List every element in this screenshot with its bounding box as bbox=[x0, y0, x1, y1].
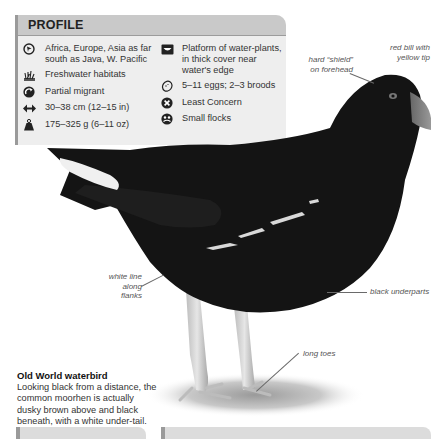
conservation-status-icon bbox=[160, 97, 174, 109]
annotation-flanks: white line along flanks bbox=[100, 272, 142, 301]
profile-header: PROFILE bbox=[18, 15, 286, 36]
profile-panel: PROFILE Africa, Europe, Asia as far sout… bbox=[15, 15, 286, 145]
profile-item-text: 30–38 cm (12–15 in) bbox=[45, 102, 129, 113]
profile-right-column: Platform of water-plants, in thick cover… bbox=[158, 43, 286, 130]
profile-item-text: 175–325 g (6–11 oz) bbox=[45, 119, 129, 130]
leader-line-toes bbox=[256, 353, 299, 392]
profile-item-weight: 175–325 g (6–11 oz) bbox=[18, 119, 158, 131]
profile-item-eggs: 5–11 eggs; 2–3 broods bbox=[158, 80, 286, 92]
nest-icon bbox=[160, 43, 174, 55]
annotation-underparts: black underparts bbox=[370, 287, 431, 297]
bottom-panel-left bbox=[16, 427, 146, 439]
profile-left-column: Africa, Europe, Asia as far south as Jav… bbox=[18, 43, 158, 136]
annotation-shield: hard “shield” on forehead bbox=[299, 55, 353, 74]
caption: Old World waterbird Looking black from a… bbox=[17, 370, 157, 428]
leader-line-flanks bbox=[141, 275, 164, 287]
length-arrows-icon bbox=[22, 102, 36, 114]
profile-item-text: 5–11 eggs; 2–3 broods bbox=[182, 80, 275, 91]
profile-item-text: Partial migrant bbox=[45, 86, 104, 97]
profile-item-text: Africa, Europe, Asia as far south as Jav… bbox=[45, 43, 158, 65]
profile-item-length: 30–38 cm (12–15 in) bbox=[18, 102, 158, 114]
profile-item-migration: Partial migrant bbox=[18, 86, 158, 98]
profile-item-text: Platform of water-plants, in thick cover… bbox=[182, 43, 286, 75]
globe-range-icon bbox=[22, 43, 36, 55]
annotation-bill: red bill with yellow tip bbox=[382, 43, 430, 62]
profile-item-habitat: Freshwater habitats bbox=[18, 69, 158, 81]
profile-item-text: Freshwater habitats bbox=[45, 69, 126, 80]
caption-body: Looking black from a distance, the commo… bbox=[17, 382, 157, 428]
profile-item-text: Least Concern bbox=[182, 97, 242, 108]
profile-title: PROFILE bbox=[28, 18, 84, 32]
egg-icon bbox=[160, 80, 174, 92]
reeds-habitat-icon bbox=[22, 69, 36, 81]
profile-item-range: Africa, Europe, Asia as far south as Jav… bbox=[18, 43, 158, 65]
caption-title: Old World waterbird bbox=[17, 370, 157, 382]
weight-icon bbox=[22, 119, 36, 131]
leader-line-shield bbox=[350, 73, 374, 84]
profile-item-text: Small flocks bbox=[182, 113, 231, 124]
migration-arrow-icon bbox=[22, 86, 36, 98]
annotation-toes: long toes bbox=[303, 349, 343, 359]
social-group-icon bbox=[160, 113, 174, 125]
bottom-panel-right bbox=[161, 427, 431, 439]
leader-line-underparts bbox=[327, 292, 367, 293]
profile-item-nest: Platform of water-plants, in thick cover… bbox=[158, 43, 286, 75]
profile-item-social: Small flocks bbox=[158, 113, 286, 125]
profile-item-status: Least Concern bbox=[158, 97, 286, 109]
